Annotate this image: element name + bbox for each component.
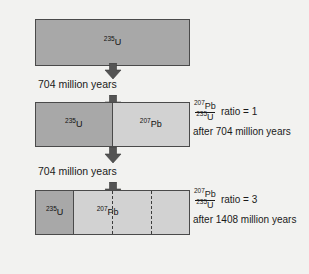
isotope-ratio-fraction-1: 207Pb 235U [193,102,217,123]
down-block-arrow-icon [104,147,122,164]
isotope-mass-uranium: 235 [65,117,76,124]
segment-lead-half: 207Pb [113,103,190,146]
fraction-denominator-2: 235U [195,200,214,211]
segment-label-uranium-half: 235U [65,120,82,129]
segment-label-lead-three-quarters: 207Pb [97,208,119,217]
segment-uranium-initial: 235U [36,20,189,65]
decay-box-one-half-life: 235U 207Pb [35,102,190,147]
segment-label-lead-half: 207Pb [140,120,162,129]
decay-diagram: 235U 704 million years 235U 207Pb 207Pb … [0,0,309,274]
interval-caption-2: 704 million years [38,166,117,177]
denominator-symbol-2: U [207,200,214,210]
ratio-row-1: 207Pb 235U ratio = 1 [193,102,305,123]
ratio-row-2: 207Pb 235U ratio = 3 [193,190,305,211]
fraction-denominator-1: 235U [195,112,214,123]
ratio-value-2: ratio = 3 [221,194,257,206]
isotope-mass-lead: 207 [97,205,108,212]
isotope-mass-lead: 207 [140,117,151,124]
decay-box-two-half-lives: 235U 207Pb [35,190,190,235]
isotope-ratio-fraction-2: 207Pb 235U [193,190,217,211]
elapsed-time-text-1: after 704 million years [193,126,305,139]
isotope-mass-uranium: 235 [104,35,115,42]
segment-label-uranium-initial: 235U [104,38,121,47]
segment-uranium-half: 235U [36,103,113,146]
interval-caption-1: 704 million years [38,79,117,90]
dashed-divider-half [112,191,113,234]
numerator-mass-1: 207 [194,99,205,106]
numerator-mass-2: 207 [194,187,205,194]
denominator-mass-1: 235 [196,110,207,117]
elapsed-time-text-2: after 1408 million years [193,214,305,227]
decay-box-initial: 235U [35,19,190,66]
denominator-mass-2: 235 [196,198,207,205]
denominator-symbol-1: U [207,112,214,122]
ratio-value-1: ratio = 1 [221,106,257,118]
isotope-symbol-uranium: U [57,207,64,217]
isotope-symbol-lead: Pb [151,119,162,129]
isotope-mass-uranium: 235 [46,205,57,212]
segment-uranium-quarter: 235U [36,191,74,234]
isotope-symbol-uranium: U [76,119,83,129]
isotope-symbol-uranium: U [115,37,122,47]
dashed-divider-three-quarter [151,191,152,234]
segment-lead-three-quarters: 207Pb [74,191,189,234]
annotation-after-704: 207Pb 235U ratio = 1 after 704 million y… [193,102,305,138]
annotation-after-1408: 207Pb 235U ratio = 3 after 1408 million … [193,190,305,226]
segment-label-uranium-quarter: 235U [46,208,63,217]
